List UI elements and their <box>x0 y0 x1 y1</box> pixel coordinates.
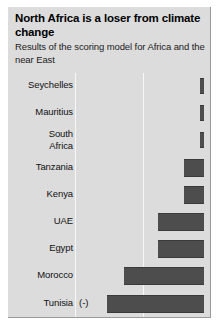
bar-south-africa <box>200 132 204 148</box>
chart-row: Kenya <box>8 182 211 209</box>
bar-uae <box>158 213 204 231</box>
chart-row: UAE <box>8 209 211 236</box>
plot-area: Seychelles Mauritius South Africa Tanzan… <box>8 73 211 318</box>
category-label-line: South <box>49 128 73 139</box>
chart-row: Mauritius <box>8 100 211 127</box>
chart-row: Tanzania <box>8 155 211 182</box>
chart-row: Seychelles <box>8 73 211 100</box>
category-label: South Africa <box>8 128 73 151</box>
category-label: Tunisia <box>8 297 73 308</box>
category-label: Egypt <box>8 242 73 253</box>
bar-kenya <box>184 186 204 204</box>
bar-tanzania <box>184 159 204 177</box>
chart-title: North Africa is a loser from climate cha… <box>15 12 205 39</box>
chart-row: South Africa <box>8 127 211 154</box>
category-label-line: Africa <box>49 140 73 151</box>
category-label-line: Seychelles <box>28 79 73 90</box>
bar-seychelles <box>200 78 204 94</box>
category-label: Seychelles <box>8 79 73 90</box>
bar-mauritius <box>200 105 204 121</box>
chart-row: Morocco <box>8 263 211 290</box>
bar-egypt <box>158 240 204 258</box>
bar-tunisia <box>107 295 204 313</box>
chart-subtitle: Results of the scoring model for Africa … <box>15 41 205 66</box>
category-label: UAE <box>8 215 73 226</box>
category-label-line: UAE <box>54 215 73 226</box>
category-label: Morocco <box>8 269 73 280</box>
bar-morocco <box>124 267 204 285</box>
category-label-line: Tunisia <box>43 297 73 308</box>
category-label-line: Kenya <box>47 188 73 199</box>
category-label-line: Morocco <box>37 269 73 280</box>
chart-figure: North Africa is a loser from climate cha… <box>8 7 211 318</box>
chart-header: North Africa is a loser from climate cha… <box>8 7 211 70</box>
category-label-line: Tanzania <box>36 161 73 172</box>
category-label: Mauritius <box>8 106 73 117</box>
chart-row: Tunisia (-) <box>8 291 211 318</box>
category-label-line: Egypt <box>49 242 73 253</box>
category-label-line: Mauritius <box>35 106 73 117</box>
negative-direction-marker: (-) <box>79 297 89 308</box>
chart-row: Egypt <box>8 236 211 263</box>
category-label: Tanzania <box>8 161 73 172</box>
category-label: Kenya <box>8 188 73 199</box>
